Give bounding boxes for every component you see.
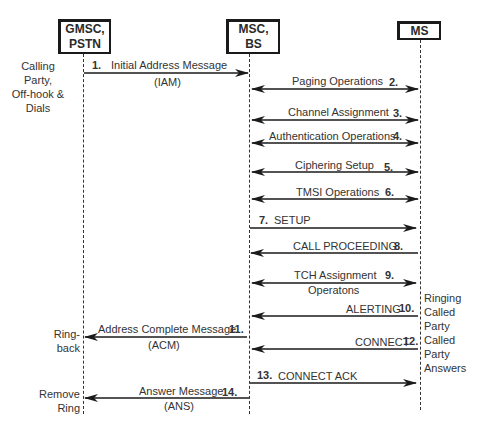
message-number: 4. <box>393 130 402 143</box>
message-label: Ciphering Setup <box>295 159 374 172</box>
message-label: Answer Message <box>139 385 223 398</box>
note-line: Answers <box>424 361 466 375</box>
message-label: SETUP <box>274 214 311 227</box>
message-label: CONNECT ACK <box>278 370 357 383</box>
message-number: 2. <box>389 76 398 89</box>
note-line: Ringing <box>424 291 461 305</box>
message-number: 7. <box>259 214 268 227</box>
message-number: 12. <box>403 335 418 348</box>
message-number: 14. <box>222 386 237 399</box>
message-number: 5. <box>384 161 393 174</box>
message-number: 1. <box>92 59 101 72</box>
note-line: Calling <box>8 59 68 73</box>
note-line: Party <box>424 319 461 333</box>
message-sublabel: (ACM) <box>148 339 180 352</box>
message-label: CONNECT <box>355 336 409 349</box>
note-called-party-answers: Called Party Answers <box>424 333 466 375</box>
message-arrows <box>0 0 487 429</box>
message-label: ALERTING <box>346 303 401 316</box>
message-sublabel: (IAM) <box>154 76 181 89</box>
note-calling-party: Calling Party, Off-hook & Dials <box>8 59 68 115</box>
note-line: Dials <box>8 101 68 115</box>
message-number: 6. <box>385 186 394 199</box>
message-label: Authentication Operations <box>269 130 396 143</box>
note-line: Called <box>424 333 466 347</box>
message-label: CALL PROCEEDING <box>293 240 397 253</box>
message-number: 3. <box>393 107 402 120</box>
note-remove-ring: Remove Ring <box>30 387 80 415</box>
message-label: TMSI Operations <box>296 186 379 199</box>
note-line: Ring <box>30 401 80 415</box>
note-line: Ring- <box>40 327 80 341</box>
note-line: back <box>40 341 80 355</box>
note-line: Called <box>424 305 461 319</box>
message-label: Paging Operations <box>292 75 383 88</box>
message-sublabel: (ANS) <box>164 400 194 413</box>
message-label: Initial Address Message <box>111 59 227 72</box>
note-line: Party <box>424 347 466 361</box>
message-number: 10. <box>399 302 414 315</box>
note-line: Party, <box>8 73 68 87</box>
note-line: Remove <box>30 387 80 401</box>
message-label: Address Complete Message <box>98 323 236 336</box>
message-label: TCH Assignment <box>294 269 377 282</box>
note-line: Off-hook & <box>8 87 68 101</box>
message-number: 9. <box>385 269 394 282</box>
note-ringing-called-party: Ringing Called Party <box>424 291 461 333</box>
message-label: Channel Assignment <box>288 106 389 119</box>
note-ring-back: Ring- back <box>40 327 80 355</box>
message-number: 11. <box>229 323 244 336</box>
message-number: 13. <box>257 369 272 382</box>
message-number: 8. <box>394 240 403 253</box>
message-sublabel: Operatons <box>308 284 359 297</box>
